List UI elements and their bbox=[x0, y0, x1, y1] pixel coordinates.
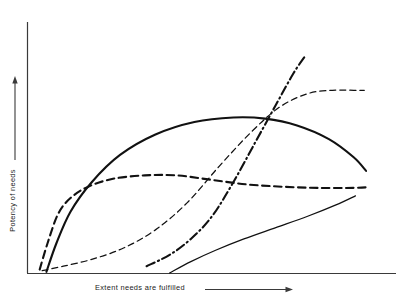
curve-thin-dashed-s-curve bbox=[42, 90, 364, 271]
y-axis-arrow-icon bbox=[12, 76, 17, 160]
curve-thick-solid-arch-curve bbox=[46, 117, 366, 272]
curve-group bbox=[40, 55, 368, 273]
needs-potency-chart: Extent needs are fulfilled Potency of ne… bbox=[0, 0, 410, 305]
curve-thin-solid-rising-curve bbox=[170, 196, 356, 273]
x-axis-label: Extent needs are fulfilled bbox=[95, 283, 185, 292]
chart-plot-area bbox=[0, 0, 410, 305]
x-axis-arrow-icon bbox=[205, 287, 293, 292]
curve-dash-dot-steep-curve bbox=[147, 55, 306, 266]
y-axis-label: Potency of needs bbox=[8, 156, 17, 246]
